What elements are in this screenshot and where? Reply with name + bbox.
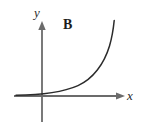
exponential-graph-figure: y x B (0, 0, 141, 126)
x-axis-label: x (127, 89, 133, 102)
curve-label-b: B (63, 18, 72, 32)
x-axis-arrowhead (116, 92, 125, 99)
y-axis-label: y (34, 6, 40, 19)
y-axis-arrowhead (38, 21, 45, 30)
